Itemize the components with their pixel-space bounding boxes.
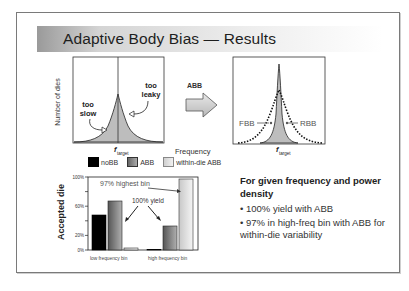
left-target-sub: target	[117, 151, 129, 156]
legend-swatch-abb	[127, 157, 138, 167]
abb-arrow-label: ABB	[187, 82, 202, 89]
bar-low-abb	[108, 201, 122, 250]
summary-heading: For given frequency and power density	[240, 175, 400, 200]
rbb-label: RBB	[300, 119, 316, 128]
abb-arrow	[185, 92, 219, 118]
bar-low-within-die	[124, 248, 138, 250]
legend-label-abb: ABB	[140, 159, 154, 166]
left-histogram: Number of dies too slow too leaky f targ…	[50, 54, 185, 158]
ytick-60: 60%	[75, 204, 84, 209]
ytick-20: 20%	[75, 233, 84, 238]
bar-high-within-die	[179, 179, 193, 250]
legend-swatch-within-die	[163, 157, 174, 167]
left-histogram-xlabel: Frequency	[175, 147, 210, 156]
right-arrow-icon	[186, 93, 217, 117]
summary-bullets: For given frequency and power density • …	[240, 175, 400, 243]
fbb-label: FBB	[239, 119, 255, 128]
ytick-100: 100%	[72, 175, 84, 180]
summary-item: • 97% in high-freq bin with ABB for with…	[240, 217, 400, 242]
right-histogram: FBB RBB f target	[230, 54, 330, 158]
category-low: low frequency bin	[90, 256, 128, 261]
bar-low-nobb	[92, 215, 106, 250]
annotation-100-yield: 100% yield	[132, 197, 164, 205]
ytick-0: 0%	[77, 248, 84, 253]
annotation-too-slow-1: too	[82, 100, 94, 109]
annotation-too-slow-2: slow	[80, 109, 97, 118]
bar-chart-ylabel: Accepted die	[56, 184, 66, 240]
legend-label-nobb: noBB	[101, 159, 118, 166]
bar-high-nobb	[147, 249, 161, 250]
annotation-highest-bin: 97% highest bin	[100, 180, 150, 188]
slide-title: Adaptive Body Bias — Results	[63, 30, 276, 48]
bar-chart: Accepted die 0% 20% 60% 100% 97% highest…	[52, 168, 242, 268]
left-histogram-ylabel: Number of dies	[54, 78, 61, 126]
summary-item: • 100% yield with ABB	[240, 203, 400, 216]
annotation-too-leaky-2: leaky	[142, 90, 162, 99]
bar-high-abb	[163, 226, 177, 250]
annotation-too-leaky-1: too	[145, 81, 157, 90]
right-target-sub: target	[279, 151, 291, 156]
legend-label-within-die: within-die ABB	[176, 159, 221, 166]
bar-chart-legend: noBB ABB within-die ABB	[88, 157, 221, 167]
category-high: high frequency bin	[148, 256, 188, 261]
legend-swatch-nobb	[88, 157, 99, 167]
